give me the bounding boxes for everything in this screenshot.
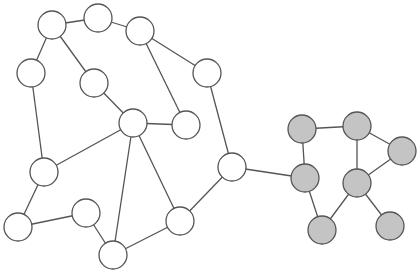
- node-g1: [288, 115, 316, 143]
- node-n13: [166, 207, 194, 235]
- edge-n4-n9: [31, 73, 44, 172]
- node-n7: [119, 109, 147, 137]
- edge-n9-n7: [44, 123, 133, 172]
- node-g2: [343, 112, 371, 140]
- node-n9: [30, 158, 58, 186]
- node-g3: [388, 137, 416, 165]
- edge-n7-n13: [133, 123, 180, 221]
- node-n12: [72, 199, 100, 227]
- node-g6: [308, 216, 336, 244]
- node-n3: [126, 17, 154, 45]
- network-graph: [0, 0, 419, 273]
- node-n2: [84, 4, 112, 32]
- node-g7: [376, 212, 404, 240]
- edge-n7-n14: [113, 123, 133, 255]
- node-n5: [80, 69, 108, 97]
- node-g5: [343, 169, 371, 197]
- node-n1: [38, 11, 66, 39]
- node-g4: [291, 164, 319, 192]
- node-n6: [193, 59, 221, 87]
- node-n11: [4, 213, 32, 241]
- node-n8: [172, 111, 200, 139]
- node-n10: [218, 153, 246, 181]
- node-n14: [99, 241, 127, 269]
- node-n4: [17, 59, 45, 87]
